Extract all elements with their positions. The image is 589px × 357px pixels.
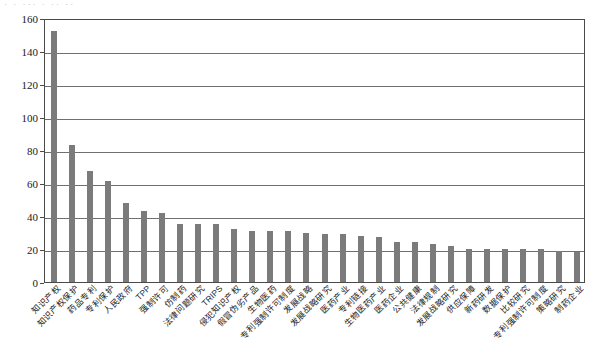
bar <box>195 224 201 282</box>
y-axis-tick-label: 60 <box>0 179 38 190</box>
y-axis-tick-mark <box>40 250 44 251</box>
y-axis-tick-label: 100 <box>0 113 38 124</box>
bar-chart: · · ··· · ·· ·· 020406080100120140160 知识… <box>0 0 589 357</box>
y-axis-tick-mark <box>40 217 44 218</box>
bar <box>105 181 111 282</box>
bar <box>249 231 255 282</box>
bar <box>213 224 219 282</box>
y-axis-tick-mark <box>40 19 44 20</box>
bar <box>412 242 418 282</box>
bar <box>556 251 562 282</box>
plot-area <box>44 19 585 283</box>
bar <box>69 145 75 282</box>
bar <box>376 237 382 282</box>
bar <box>322 234 328 282</box>
bar <box>51 31 57 282</box>
x-axis-labels: 知识产权知识产权保护药品专利专利保护人民政府TPP强制许可仿制药法律问题研究TR… <box>44 284 585 357</box>
bar <box>358 236 364 282</box>
y-axis-tick-mark <box>40 118 44 119</box>
bar <box>159 213 165 282</box>
bar <box>574 252 580 282</box>
y-axis-tick-label: 120 <box>0 80 38 91</box>
bar <box>141 211 147 282</box>
bar <box>448 246 454 282</box>
bar <box>303 233 309 283</box>
bar <box>285 231 291 282</box>
y-axis-tick-label: 40 <box>0 212 38 223</box>
bar <box>123 203 129 282</box>
y-axis-tick-mark <box>40 151 44 152</box>
top-cropped-text: · · ··· · ·· ·· <box>4 0 144 7</box>
y-axis-tick-label: 20 <box>0 245 38 256</box>
bar-series <box>45 20 584 282</box>
y-axis-tick-label: 160 <box>0 14 38 25</box>
bar <box>520 249 526 282</box>
y-axis-tick-label: 140 <box>0 47 38 58</box>
bar <box>87 171 93 282</box>
y-axis-tick-label: 80 <box>0 146 38 157</box>
bar <box>177 224 183 282</box>
bar <box>430 244 436 282</box>
y-axis-tick-mark <box>40 184 44 185</box>
bar <box>340 234 346 282</box>
bar <box>394 242 400 282</box>
bar <box>231 229 237 282</box>
y-axis-tick-mark <box>40 85 44 86</box>
bar <box>267 231 273 282</box>
bar <box>502 249 508 282</box>
bar <box>538 249 544 282</box>
bar <box>466 249 472 282</box>
y-axis-tick-label: 0 <box>0 278 38 289</box>
y-axis-tick-mark <box>40 52 44 53</box>
bar <box>484 249 490 282</box>
